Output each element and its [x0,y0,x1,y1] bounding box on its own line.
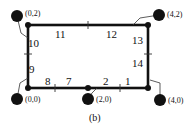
edge-label-14: 14 [132,57,144,69]
edge-label-11: 11 [55,28,66,40]
edge-label-8: 8 [45,75,51,87]
node-4-2 [153,9,165,21]
diagram-canvas: (0,2) (4,2) (0,0) (2,0) (4,0) 11 12 13 1… [0,0,193,131]
edge-label-1: 1 [125,75,131,87]
figure-caption: (b) [89,112,101,124]
node-label-2-0: (2,0) [96,95,112,104]
edge-label-10: 10 [28,37,40,49]
node-label-4-0: (4,0) [168,96,184,105]
edge-label-12: 12 [106,28,117,40]
node-2-0 [82,93,94,105]
node-0-2 [11,10,23,22]
node-4-0 [154,94,166,106]
edge-label-13: 13 [132,34,144,46]
node-label-0-2: (0,2) [25,9,41,18]
node-0-0 [11,93,23,105]
edge-label-7: 7 [66,75,72,87]
node-label-4-2: (4,2) [167,10,183,19]
edge-label-2: 2 [103,75,109,87]
node-label-0-0: (0,0) [25,95,41,104]
edge-label-9: 9 [29,63,35,75]
